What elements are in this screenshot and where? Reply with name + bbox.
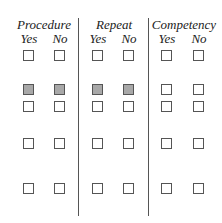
checkbox-procedure-yes-row-2[interactable] [23, 84, 34, 95]
checkbox-competency-yes-row-3[interactable] [161, 101, 172, 112]
procedure-yes-label: Yes [17, 31, 41, 47]
checkbox-procedure-yes-row-3[interactable] [23, 101, 34, 112]
checkbox-competency-yes-row-5[interactable] [161, 183, 172, 194]
checkbox-procedure-no-row-5[interactable] [54, 183, 65, 194]
checkbox-repeat-no-row-3[interactable] [123, 101, 134, 112]
checkbox-competency-no-row-5[interactable] [193, 183, 204, 194]
checkbox-competency-no-row-2[interactable] [193, 84, 204, 95]
checkbox-repeat-yes-row-5[interactable] [92, 183, 103, 194]
repeat-yes-label: Yes [86, 31, 110, 47]
checkbox-repeat-no-row-2[interactable] [123, 84, 134, 95]
checkbox-repeat-no-row-5[interactable] [123, 183, 134, 194]
divider-2 [148, 18, 149, 216]
checkbox-repeat-yes-row-3[interactable] [92, 101, 103, 112]
checkbox-procedure-no-row-3[interactable] [54, 101, 65, 112]
checkbox-procedure-no-row-2[interactable] [54, 84, 65, 95]
checkbox-competency-yes-row-1[interactable] [161, 50, 172, 61]
checkbox-repeat-yes-row-2[interactable] [92, 84, 103, 95]
checkbox-procedure-no-row-4[interactable] [54, 138, 65, 149]
competency-no-label: No [187, 31, 211, 47]
checkbox-repeat-no-row-1[interactable] [123, 50, 134, 61]
checkbox-competency-no-row-1[interactable] [193, 50, 204, 61]
checkbox-procedure-no-row-1[interactable] [54, 50, 65, 61]
checkbox-repeat-no-row-4[interactable] [123, 138, 134, 149]
checkbox-competency-no-row-4[interactable] [193, 138, 204, 149]
procedure-no-label: No [48, 31, 72, 47]
repeat-no-label: No [117, 31, 141, 47]
competency-yes-label: Yes [155, 31, 179, 47]
checkbox-repeat-yes-row-1[interactable] [92, 50, 103, 61]
checkbox-competency-no-row-3[interactable] [193, 101, 204, 112]
checkbox-repeat-yes-row-4[interactable] [92, 138, 103, 149]
checkbox-procedure-yes-row-1[interactable] [23, 50, 34, 61]
checkbox-competency-yes-row-4[interactable] [161, 138, 172, 149]
divider-1 [78, 18, 79, 216]
checkbox-procedure-yes-row-5[interactable] [23, 183, 34, 194]
checkbox-competency-yes-row-2[interactable] [161, 84, 172, 95]
checkbox-procedure-yes-row-4[interactable] [23, 138, 34, 149]
